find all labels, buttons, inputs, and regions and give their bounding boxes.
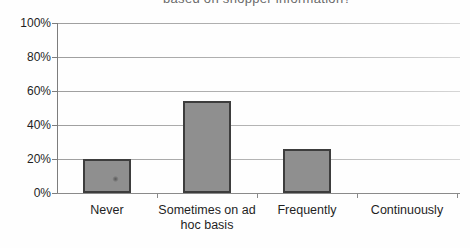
gridline-40% — [57, 125, 460, 126]
bar-chart: based on shopper information? 0%20%40%60… — [0, 0, 470, 248]
y-axis — [57, 23, 58, 193]
x-axis-label-1: Sometimes on ad hoc basis — [155, 203, 259, 233]
y-axis-label-100%: 100% — [7, 17, 51, 29]
x-axis-tick-4 — [457, 193, 458, 198]
gridline-60% — [57, 91, 460, 92]
bar-sometimes-on-ad-hoc-basis — [183, 101, 231, 193]
scan-artifact-dot — [112, 176, 119, 182]
y-axis-label-20%: 20% — [7, 153, 51, 165]
x-axis-label-3: Continuously — [355, 203, 459, 218]
x-axis — [57, 193, 460, 194]
chart-title: based on shopper information? — [57, 0, 457, 6]
y-axis-label-80%: 80% — [7, 51, 51, 63]
bar-never — [83, 159, 131, 193]
y-axis-label-40%: 40% — [7, 119, 51, 131]
x-axis-tick-2 — [257, 193, 258, 198]
x-axis-label-0: Never — [55, 203, 159, 218]
gridline-100% — [57, 23, 460, 24]
x-axis-tick-3 — [357, 193, 358, 198]
y-axis-label-0%: 0% — [7, 187, 51, 199]
bar-frequently — [283, 149, 331, 193]
y-axis-label-60%: 60% — [7, 85, 51, 97]
x-axis-label-2: Frequently — [255, 203, 359, 218]
gridline-80% — [57, 57, 460, 58]
x-axis-tick-1 — [157, 193, 158, 198]
